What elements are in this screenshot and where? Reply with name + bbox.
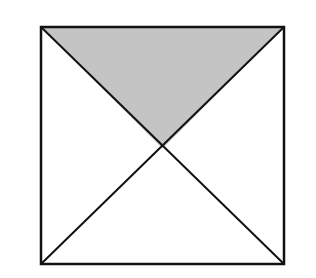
diagram-canvas <box>0 0 316 278</box>
shaded-top-triangle <box>41 27 284 149</box>
